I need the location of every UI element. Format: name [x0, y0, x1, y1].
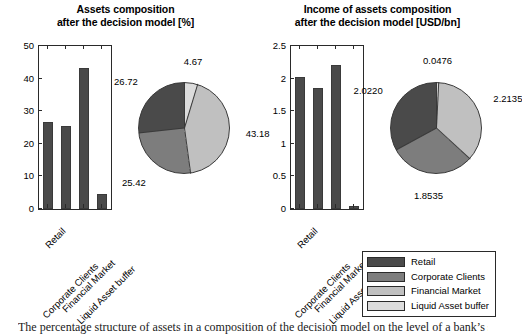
- y-tick-label: 2.5: [264, 40, 286, 51]
- y-tick-mark: [38, 78, 42, 79]
- y-tick-label: 0: [12, 203, 34, 214]
- y-tick-mark: [38, 110, 42, 111]
- x-tick-label: Retail: [57, 211, 82, 236]
- pie-value-label: 25.42: [122, 177, 146, 188]
- y-tick-label: 0: [264, 203, 286, 214]
- y-tick-mark: [290, 143, 294, 144]
- pie-value-label: 1.8535: [414, 190, 443, 201]
- pie-chart-assets-composition: 4.6743.1825.4226.72: [128, 60, 246, 200]
- y-tick-label: 50: [12, 40, 34, 51]
- y-tick-mark: [38, 45, 42, 46]
- x-tick-mark-bottom: [83, 204, 84, 208]
- legend-item: Retail: [367, 255, 491, 270]
- panel-assets-composition: Assets composition after the decision mo…: [0, 0, 251, 318]
- bar-chart-plot-area: [290, 45, 364, 210]
- pie-value-label: 2.2135: [493, 93, 522, 104]
- bar-chart-income-of-assets: 00.511.522.5 RetailCorporate ClientsFina…: [264, 40, 372, 228]
- y-tick-label: 1: [264, 137, 286, 148]
- x-tick-mark-top: [335, 45, 336, 49]
- bar: [295, 77, 304, 209]
- y-tick-mark: [290, 78, 294, 79]
- x-tick-mark-bottom: [317, 204, 318, 208]
- x-tick-mark-top: [317, 45, 318, 49]
- bar-chart-plot-area: [38, 45, 112, 210]
- y-tick-mark: [38, 175, 42, 176]
- bar: [61, 126, 70, 209]
- pie-value-label: 4.67: [184, 56, 203, 67]
- y-tick-label: 1.5: [264, 105, 286, 116]
- x-tick-mark-top: [299, 45, 300, 49]
- bar-chart-assets-composition: 01020304050 RetailCorporate ClientsFinan…: [12, 40, 120, 228]
- panel-title-assets-composition: Assets composition after the decision mo…: [0, 3, 251, 29]
- x-tick-mark-bottom: [47, 204, 48, 208]
- legend-item-label: Retail: [411, 257, 435, 267]
- bar: [331, 65, 340, 209]
- panel-title-line2: after the decision model [%]: [0, 16, 251, 29]
- pie-value-label: 26.72: [114, 76, 138, 87]
- y-tick-label: 30: [12, 105, 34, 116]
- x-tick-mark-top: [101, 45, 102, 49]
- bar: [79, 68, 88, 209]
- legend-color-swatch: [367, 286, 405, 296]
- x-tick-mark-top: [83, 45, 84, 49]
- asset-segment-legend: RetailCorporate ClientsFinancial MarketL…: [362, 251, 496, 317]
- y-tick-label: 0.5: [264, 170, 286, 181]
- x-tick-mark-bottom: [299, 204, 300, 208]
- x-tick-mark-bottom: [101, 204, 102, 208]
- legend-item-label: Liquid Asset buffer: [411, 301, 489, 311]
- legend-color-swatch: [367, 257, 405, 267]
- x-tick-mark-top: [47, 45, 48, 49]
- legend-item-label: Corporate Clients: [411, 272, 485, 282]
- legend-item: Financial Market: [367, 284, 491, 299]
- legend-color-swatch: [367, 272, 405, 282]
- pie-value-label: 2.0220: [354, 85, 383, 96]
- panel-title-line2: after the decision model [USD/bn]: [252, 16, 503, 29]
- x-tick-mark-top: [353, 45, 354, 49]
- legend-color-swatch: [367, 301, 405, 311]
- legend-item: Corporate Clients: [367, 270, 491, 285]
- panel-title-line1: Assets composition: [77, 3, 175, 15]
- figure-caption: The percentage structure of assets in a …: [18, 320, 488, 334]
- y-tick-label: 10: [12, 170, 34, 181]
- y-tick-mark: [290, 110, 294, 111]
- y-tick-mark: [38, 143, 42, 144]
- y-tick-mark: [290, 175, 294, 176]
- panel-title-income-of-assets: Income of assets composition after the d…: [252, 3, 503, 29]
- bar-series: [291, 46, 363, 209]
- legend-item-label: Financial Market: [411, 286, 481, 296]
- bar-series: [39, 46, 111, 209]
- y-tick-label: 20: [12, 137, 34, 148]
- x-tick-mark-bottom: [335, 204, 336, 208]
- y-tick-mark: [290, 45, 294, 46]
- x-tick-mark-bottom: [353, 204, 354, 208]
- y-tick-mark: [38, 208, 42, 209]
- legend-item: Liquid Asset buffer: [367, 299, 491, 314]
- x-tick-label: Retail: [309, 211, 334, 236]
- bar: [313, 88, 322, 209]
- pie-chart-income-of-assets: 0.04762.21351.85352.0220: [380, 60, 498, 200]
- y-tick-mark: [290, 208, 294, 209]
- bar: [43, 122, 52, 209]
- x-tick-mark-top: [65, 45, 66, 49]
- x-tick-mark-bottom: [65, 204, 66, 208]
- y-tick-label: 2: [264, 72, 286, 83]
- y-tick-label: 40: [12, 72, 34, 83]
- pie-value-label: 0.0476: [423, 55, 452, 66]
- panel-title-line1: Income of assets composition: [304, 3, 452, 15]
